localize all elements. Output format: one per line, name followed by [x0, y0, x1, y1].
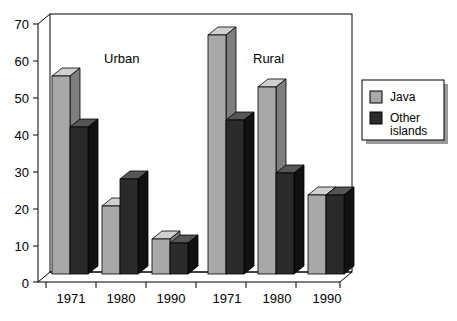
bar-urban-1990-other	[170, 235, 198, 274]
bar-urban-1971-other	[70, 119, 98, 274]
y-tick-label-30: 30	[15, 165, 29, 180]
legend-label-other-islands-line1: Other	[390, 111, 420, 125]
y-tick-label-60: 60	[15, 54, 29, 69]
bar-urban-1980-other	[120, 171, 148, 274]
y-tick-50: 50	[15, 91, 38, 106]
legend-item-java: Java	[370, 90, 416, 104]
bar-chart-figure: 70 60 50 40 30 20	[0, 0, 457, 321]
y-tick-label-10: 10	[15, 239, 29, 254]
y-tick-label-40: 40	[15, 128, 29, 143]
panel-label-rural: Rural	[253, 51, 284, 66]
legend-label-java: Java	[390, 90, 416, 104]
bar-rural-1971-other	[226, 112, 254, 274]
y-tick-20: 20	[15, 202, 38, 217]
y-tick-label-20: 20	[15, 202, 29, 217]
y-tick-0: 0	[22, 276, 38, 291]
y-tick-label-70: 70	[15, 17, 29, 32]
x-label-urban-1971: 1971	[57, 291, 86, 306]
y-tick-70: 70	[15, 17, 38, 32]
y-tick-label-0: 0	[22, 276, 29, 291]
x-axis-ticks	[46, 282, 340, 288]
y-tick-30: 30	[15, 165, 38, 180]
y-tick-40: 40	[15, 128, 38, 143]
x-label-urban-1990: 1990	[157, 291, 186, 306]
bar-rural-1990-other	[326, 187, 354, 274]
chart-canvas: 70 60 50 40 30 20	[0, 0, 457, 321]
bar-rural-1980-other	[276, 165, 304, 274]
x-axis-labels: 1971 1980 1990 1971 1980 1990	[57, 291, 342, 306]
y-tick-label-50: 50	[15, 91, 29, 106]
x-label-rural-1980: 1980	[263, 291, 292, 306]
legend-label-other-islands-line2: islands	[390, 124, 427, 138]
panel-label-urban: Urban	[104, 51, 139, 66]
x-label-rural-1971: 1971	[213, 291, 242, 306]
x-label-urban-1980: 1980	[107, 291, 136, 306]
bar-group-rural-1990	[308, 187, 354, 274]
x-label-rural-1990: 1990	[313, 291, 342, 306]
y-tick-60: 60	[15, 54, 38, 69]
y-tick-10: 10	[15, 239, 38, 254]
y-axis: 70 60 50 40 30 20	[15, 17, 38, 291]
legend: Java Other islands	[362, 80, 448, 144]
bar-group-urban-1990	[152, 231, 198, 274]
